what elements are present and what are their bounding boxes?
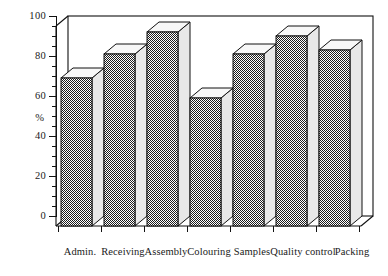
bar-chart: 100 80 60 40 20 0 % Admin. Receiving — [0, 0, 388, 276]
bar-front-face — [276, 36, 307, 226]
x-tick-3 — [187, 226, 188, 232]
bar-side-face — [92, 68, 104, 226]
bar-side-face — [307, 26, 319, 226]
bar-front-face — [61, 78, 92, 226]
bar-side-face — [264, 44, 276, 226]
x-tick-0 — [58, 226, 59, 232]
bar-side-face — [350, 40, 362, 226]
x-tick-1 — [101, 226, 102, 232]
bar-samples — [233, 44, 276, 226]
bar-packing — [319, 40, 362, 226]
bar-front-face — [319, 50, 350, 226]
bar-front-face — [233, 54, 264, 226]
x-tick-7 — [359, 226, 360, 232]
bar-admin — [61, 68, 104, 226]
bar-side-face — [135, 44, 147, 226]
bar-quality-control — [276, 26, 319, 226]
bar-side-face — [178, 22, 190, 226]
bar-side-face — [221, 88, 233, 226]
x-tick-2 — [144, 226, 145, 232]
bar-colouring — [190, 88, 233, 226]
bars-layer — [0, 0, 388, 276]
bar-receiving — [104, 44, 147, 226]
bar-front-face — [147, 32, 178, 226]
x-tick-5 — [273, 226, 274, 232]
x-category-label-packing: Packing — [322, 246, 382, 257]
bar-assembly — [147, 22, 190, 226]
bar-front-face — [104, 54, 135, 226]
x-tick-6 — [316, 226, 317, 232]
bars-group — [61, 22, 362, 226]
x-tick-4 — [230, 226, 231, 232]
bar-front-face — [190, 98, 221, 226]
